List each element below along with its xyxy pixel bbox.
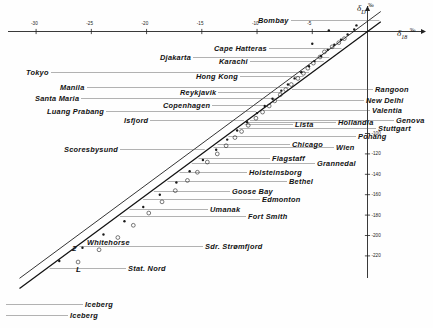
data-point-open — [160, 200, 164, 204]
station-label: Luang Prabang — [47, 107, 104, 116]
station-label: Valentia — [372, 106, 402, 115]
data-point-filled — [346, 33, 348, 35]
data-point-filled — [320, 55, 322, 57]
data-point-filled — [81, 247, 83, 249]
station-label: Flagstaff — [272, 154, 305, 163]
station-label: Edmonton — [262, 195, 301, 204]
data-point-filled — [280, 89, 282, 91]
data-point-open — [195, 170, 199, 174]
station-label: Grannedal — [317, 159, 356, 168]
data-point-filled — [293, 77, 295, 79]
data-point-open — [254, 116, 258, 120]
station-label: Bombay — [258, 16, 289, 25]
data-point-open — [284, 88, 288, 92]
station-label: Rangoon — [375, 85, 409, 94]
y-tick-label: -120 — [372, 151, 381, 156]
data-point-filled — [327, 49, 329, 51]
y-tick-label: -220 — [372, 253, 381, 258]
data-point-filled — [333, 44, 335, 46]
data-point-open — [147, 211, 151, 215]
data-point-open — [215, 152, 219, 156]
station-label: Sdr. Strømfjord — [205, 242, 263, 251]
data-point-open — [76, 260, 80, 264]
station-label: New Delhi — [366, 96, 404, 105]
data-point-filled — [102, 233, 104, 235]
station-label: Chicago — [292, 140, 323, 149]
y-axis-title: δD ‰ — [357, 2, 374, 15]
data-point-open — [97, 248, 101, 252]
line-label-L: L — [76, 265, 81, 274]
data-point-filled — [355, 24, 357, 26]
x-axis-arrow — [421, 29, 426, 34]
data-point-filled — [159, 194, 161, 196]
station-label: Pohang — [358, 132, 387, 141]
station-label: Santa Maria — [35, 94, 79, 103]
x-tick-label: -30 — [31, 21, 38, 26]
chart-figure: δ18 ‰ δD ‰ 2 L -30-25-20-15-10-5-100-120… — [0, 0, 433, 328]
station-label: Copenhagen — [163, 101, 210, 110]
data-point-filled — [142, 206, 144, 208]
data-point-filled — [215, 149, 217, 151]
station-label: Wien — [336, 143, 355, 152]
data-point-filled — [246, 121, 248, 123]
x-tick-label: -5 — [307, 21, 311, 26]
station-label: Iceberg — [70, 311, 98, 320]
data-point-filled — [313, 60, 315, 62]
data-point-filled — [353, 28, 355, 30]
station-label: Manila — [60, 83, 85, 92]
data-point-open — [296, 77, 300, 81]
y-tick-label: -160 — [372, 192, 381, 197]
station-label: Bethel — [289, 177, 313, 186]
station-label: Cape Hatteras — [214, 44, 267, 53]
line-label-2: 2 — [72, 244, 76, 253]
data-point-filled — [123, 220, 125, 222]
station-label: Reykjavik — [180, 88, 216, 97]
station-label: Karachi — [219, 57, 248, 66]
data-point-open — [131, 223, 135, 227]
data-point-filled — [58, 260, 60, 262]
station-label: Fort Smith — [248, 212, 287, 221]
y-tick-label: -140 — [372, 172, 381, 177]
station-label: Tokyo — [26, 68, 49, 77]
x-tick-label: -15 — [197, 21, 204, 26]
station-label: Hong Kong — [196, 72, 238, 81]
station-label: Whitehorse — [87, 238, 130, 247]
station-label: Hollandia — [338, 118, 374, 127]
data-point-open — [289, 83, 293, 87]
data-point-filled — [271, 98, 273, 100]
data-point-open — [261, 110, 265, 114]
station-label: Holsteinsborg — [249, 168, 302, 177]
station-label: Lista — [295, 120, 314, 129]
data-point-filled — [175, 181, 177, 183]
y-tick-label: -180 — [372, 213, 381, 218]
data-point-open — [233, 136, 237, 140]
y-tick-label: -200 — [372, 233, 381, 238]
data-point-filled — [236, 129, 238, 131]
data-point-filled — [311, 43, 313, 45]
data-point-filled — [300, 71, 302, 73]
data-point-filled — [287, 83, 289, 85]
x-tick-label: -20 — [142, 21, 149, 26]
data-point-filled — [256, 112, 258, 114]
data-point-filled — [340, 38, 342, 40]
station-label: Isfjord — [124, 116, 148, 125]
station-label: Scoresbysund — [64, 145, 118, 154]
x-tick-label: -25 — [86, 21, 93, 26]
data-point-filled — [202, 159, 204, 161]
x-axis-title: δ18 ‰ — [397, 27, 415, 40]
data-point-open — [173, 189, 177, 193]
station-label: Iceberg — [85, 300, 113, 309]
data-point-filled — [226, 138, 228, 140]
data-point-open — [240, 130, 244, 134]
data-point-filled — [328, 29, 330, 31]
leader-lines — [6, 21, 394, 316]
data-point-filled — [308, 65, 310, 67]
data-point-open — [246, 123, 250, 127]
data-point-filled — [188, 170, 190, 172]
data-point-filled — [264, 105, 266, 107]
station-label: Stat. Nord — [128, 264, 166, 273]
station-label: Umanak — [210, 205, 240, 214]
data-point-open — [186, 179, 190, 183]
station-label: Djakarta — [160, 53, 191, 62]
